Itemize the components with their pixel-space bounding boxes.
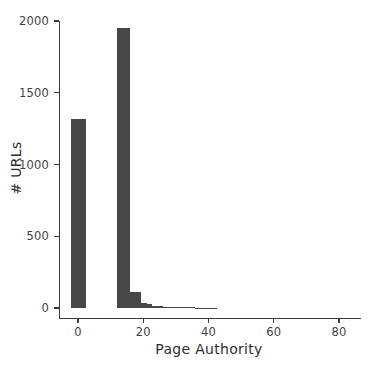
x-axis-tick-label: 40 [201, 325, 216, 339]
histogram-bar [135, 292, 141, 308]
x-axis-label: Page Authority [155, 341, 262, 357]
histogram-bar [206, 308, 212, 309]
histogram-bar [195, 308, 200, 309]
histogram-bar [157, 306, 163, 308]
histogram-bar [179, 307, 184, 308]
x-axis-tick-label: 0 [74, 325, 82, 339]
y-axis-label: # URLs [8, 141, 24, 194]
x-axis-tick-label: 20 [136, 325, 151, 339]
histogram-bar [212, 308, 217, 309]
histogram-bar [190, 307, 196, 308]
plot-area: 0500100015002000020406080 [0, 0, 376, 371]
histogram-bar [71, 119, 86, 308]
histogram-bar [147, 304, 152, 308]
y-axis-tick-label: 2000 [19, 14, 49, 28]
y-axis-spine [59, 21, 60, 318]
y-axis-tick-label: 1500 [19, 86, 49, 100]
x-axis-tick-label: 60 [266, 325, 281, 339]
histogram-bar [141, 303, 147, 308]
histogram-figure: 0500100015002000020406080 # URLs Page Au… [0, 0, 376, 371]
x-axis-tick-label: 80 [331, 325, 346, 339]
histogram-bar [184, 307, 190, 308]
histogram-bar [152, 306, 158, 308]
y-axis-tick-label: 0 [41, 301, 49, 315]
histogram-bar [168, 307, 174, 308]
histogram-bar [117, 28, 129, 308]
y-axis-tick-label: 500 [26, 229, 49, 243]
histogram-bar [163, 307, 168, 308]
x-axis-spine [59, 318, 361, 319]
histogram-bar [174, 307, 180, 308]
histogram-bar [201, 308, 207, 309]
histogram-bar [130, 292, 136, 309]
